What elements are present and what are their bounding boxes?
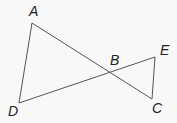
diagram-lines [0, 0, 177, 123]
segment-DE [19, 57, 155, 103]
segment-EC [152, 57, 155, 99]
label-A: A [29, 4, 38, 18]
label-E: E [160, 43, 169, 57]
segment-AD [19, 23, 32, 103]
geometry-diagram: A B E C D [0, 0, 177, 123]
label-B: B [110, 53, 119, 67]
segment-AC [32, 23, 152, 99]
label-D: D [8, 104, 18, 118]
label-C: C [152, 101, 162, 115]
